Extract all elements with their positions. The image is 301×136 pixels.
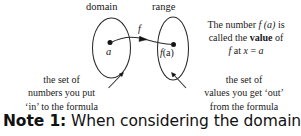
range-description-line-2: values you get ‘out’	[188, 86, 300, 99]
domain-description-line-2: numbers you put	[10, 86, 113, 99]
range-element-label: f(a)	[160, 48, 174, 59]
note-paragraph: Note 1: When considering the domain of a	[3, 112, 301, 130]
domain-ellipse	[93, 18, 131, 78]
range-set-label: range	[152, 1, 175, 12]
figure-page: domain range a f(a) f The number f (a) i…	[0, 0, 301, 136]
value-callout-text: The number f (a) is called the value of …	[192, 18, 300, 58]
value-callout-line-2: called the value of	[192, 31, 300, 44]
note-body-text: When considering the domain of a	[66, 112, 301, 130]
domain-element-label: a	[106, 46, 111, 57]
value-callout-line-3: f at x = a	[192, 44, 300, 57]
mapping-arrowhead	[139, 36, 147, 41]
note-label: Note 1:	[3, 112, 66, 130]
range-description-line-1: the set of	[188, 73, 300, 86]
range-description-line-3: from the formula	[188, 100, 300, 113]
mapping-function-label: f	[138, 24, 141, 35]
domain-description-line-3: ‘in’ to the formula	[10, 100, 113, 113]
domain-set-label: domain	[86, 1, 118, 12]
domain-description-text: the set of numbers you put ‘in’ to the f…	[10, 73, 113, 113]
range-element-argument: (a)	[163, 47, 174, 58]
value-callout-line-1: The number f (a) is	[192, 18, 300, 31]
domain-description-line-1: the set of	[10, 73, 113, 86]
range-description-text: the set of values you get ‘out’ from the…	[188, 73, 300, 113]
